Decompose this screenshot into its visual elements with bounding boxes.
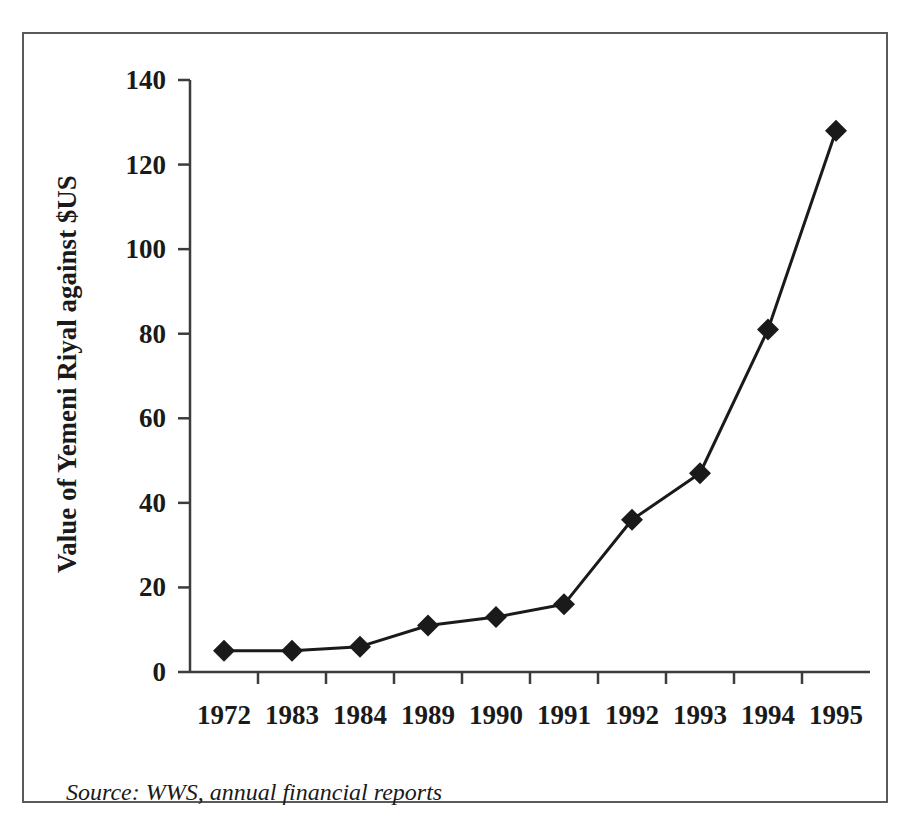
x-axis-tick-label: 1989 (401, 700, 455, 730)
line-chart: Value of Yemeni Riyal against $US 020406… (24, 34, 890, 805)
x-axis-tick-label: 1991 (537, 700, 591, 730)
x-axis-tick-label: 1972 (197, 700, 251, 730)
data-point-marker (281, 640, 303, 662)
chart-plot-area: Value of Yemeni Riyal against $US 020406… (24, 34, 890, 805)
y-axis-ticks (178, 80, 190, 672)
data-point-marker (485, 606, 507, 628)
y-axis-tick-label: 100 (126, 234, 167, 264)
x-axis-tick-label: 1983 (265, 700, 319, 730)
data-point-marker (213, 640, 235, 662)
y-axis-tick-label: 0 (153, 657, 167, 687)
data-point-marker (689, 462, 711, 484)
data-point-marker (417, 614, 439, 636)
source-note: Source: WWS, annual financial reports (66, 779, 442, 806)
x-axis-tick-label: 1992 (605, 700, 659, 730)
x-axis-tick-label: 1994 (741, 700, 795, 730)
y-axis-tick-labels: 020406080100120140 (126, 65, 167, 687)
x-axis-tick-label: 1995 (809, 700, 863, 730)
axis-lines (190, 80, 870, 672)
y-axis-tick-label: 40 (139, 488, 166, 518)
figure-border-frame: Value of Yemeni Riyal against $US 020406… (22, 32, 888, 803)
data-point-marker (349, 636, 371, 658)
y-axis-tick-label: 80 (139, 319, 166, 349)
y-axis-title: Value of Yemeni Riyal against $US (52, 175, 82, 573)
data-series-line (224, 131, 836, 651)
y-axis-tick-label: 60 (139, 403, 166, 433)
x-axis-tick-labels: 1972198319841989199019911992199319941995 (197, 700, 863, 730)
y-axis-tick-label: 140 (126, 65, 167, 95)
data-point-marker (825, 120, 847, 142)
data-point-marker (757, 318, 779, 340)
x-axis-tick-label: 1993 (673, 700, 727, 730)
data-series-markers (213, 120, 847, 662)
y-axis-tick-label: 120 (126, 150, 167, 180)
x-axis-tick-label: 1990 (469, 700, 523, 730)
x-axis-ticks (258, 672, 802, 684)
x-axis-tick-label: 1984 (333, 700, 387, 730)
y-axis-title-text: Value of Yemeni Riyal against $US (52, 175, 82, 573)
figure-root: Value of Yemeni Riyal against $US 020406… (0, 0, 906, 840)
y-axis-tick-label: 20 (139, 572, 166, 602)
